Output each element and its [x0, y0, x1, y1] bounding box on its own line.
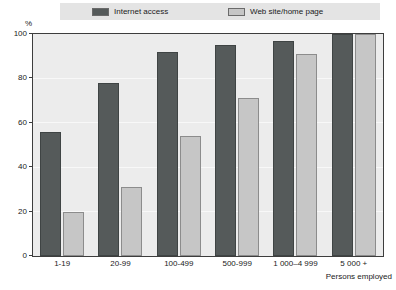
chart-legend: Internet access Web site/home page	[60, 3, 380, 20]
bar-web-site-home-page-2[interactable]	[180, 136, 201, 256]
bar-group-5	[325, 34, 383, 256]
bar-web-site-home-page-5[interactable]	[355, 34, 376, 256]
bar-group-2	[150, 34, 208, 256]
y-tick-mark-80	[29, 77, 32, 78]
x-tick-label-0: 1-19	[33, 259, 91, 268]
bar-internet-access-4[interactable]	[273, 41, 294, 256]
legend-item-internet-access: Internet access	[92, 7, 168, 16]
bar-web-site-home-page-4[interactable]	[296, 54, 317, 256]
x-tick-label-1: 20-99	[91, 259, 149, 268]
legend-item-web-site-home-page: Web site/home page	[228, 7, 323, 16]
bar-internet-access-5[interactable]	[332, 34, 353, 256]
bar-group-3	[208, 34, 266, 256]
y-tick-mark-60	[29, 122, 32, 123]
bar-web-site-home-page-3[interactable]	[238, 98, 259, 256]
y-axis-unit-label: %	[25, 19, 32, 28]
y-tick-mark-20	[29, 211, 32, 212]
bar-group-4	[266, 34, 324, 256]
x-tick-label-2: 100-499	[150, 259, 208, 268]
bar-group-0	[33, 34, 91, 256]
y-tick-label-100: 100	[0, 29, 27, 38]
x-tick-label-4: 1 000–4 999	[266, 259, 324, 268]
bar-internet-access-1[interactable]	[98, 83, 119, 256]
bar-web-site-home-page-1[interactable]	[121, 187, 142, 256]
y-tick-label-60: 60	[0, 118, 27, 127]
y-tick-label-0: 0	[0, 251, 27, 260]
x-axis-title: Persons employed	[326, 272, 392, 281]
bar-groups	[33, 34, 383, 256]
bar-group-1	[91, 34, 149, 256]
y-tick-mark-100	[29, 33, 32, 34]
y-tick-mark-40	[29, 166, 32, 167]
bar-internet-access-2[interactable]	[157, 52, 178, 256]
x-tick-label-5: 5 000 +	[325, 259, 383, 268]
y-tick-label-80: 80	[0, 73, 27, 82]
legend-label-internet-access: Internet access	[114, 7, 168, 16]
y-tick-label-20: 20	[0, 207, 27, 216]
x-tick-label-3: 500-999	[208, 259, 266, 268]
bar-web-site-home-page-0[interactable]	[63, 212, 84, 256]
bar-internet-access-0[interactable]	[40, 132, 61, 256]
legend-swatch-web-site-home-page	[228, 8, 245, 16]
legend-swatch-internet-access	[92, 8, 109, 16]
bar-internet-access-3[interactable]	[215, 45, 236, 256]
y-tick-mark-0	[29, 255, 32, 256]
x-axis-tick-labels: 1-19 20-99 100-499 500-999 1 000–4 999 5…	[33, 259, 383, 268]
y-tick-label-40: 40	[0, 162, 27, 171]
legend-label-web-site-home-page: Web site/home page	[250, 7, 323, 16]
chart-figure: Internet access Web site/home page % 100…	[0, 0, 396, 290]
